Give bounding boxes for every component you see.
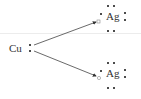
ag-bottom-symbol: Ag — [106, 68, 119, 79]
ag-top-dot — [107, 30, 109, 32]
arrow-to-top-ag — [34, 22, 96, 45]
ag-top-symbol: Ag — [106, 11, 119, 22]
ag-top-dot — [107, 5, 109, 7]
cu-valence-dot — [29, 50, 31, 52]
ag-top-dot — [124, 12, 126, 14]
ag-top-dot — [100, 13, 102, 15]
ag-bottom-dot — [107, 62, 109, 64]
ag-bottom-dot — [100, 70, 102, 72]
open-circle-marker — [97, 76, 100, 79]
ag-bottom-dot — [124, 69, 126, 71]
ag-bottom-dot — [107, 87, 109, 89]
ag-top-dot — [124, 19, 126, 21]
ag-bottom-dot — [113, 62, 115, 64]
ag-top-dot — [113, 5, 115, 7]
ag-top-dot — [113, 30, 115, 32]
ag-bottom-dot — [113, 87, 115, 89]
arrow-to-bottom-ag — [34, 51, 96, 76]
open-square-marker — [97, 20, 100, 23]
cu-symbol: Cu — [9, 43, 22, 54]
cu-valence-dot — [29, 44, 31, 46]
ag-bottom-dot — [124, 76, 126, 78]
